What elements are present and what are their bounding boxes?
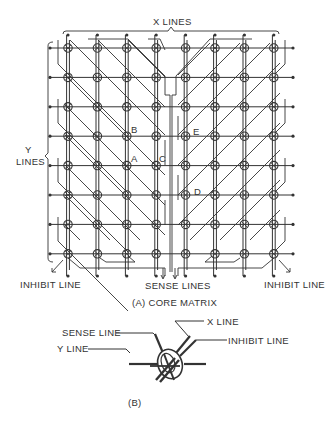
- core-label-b: B: [131, 124, 138, 135]
- inhibit-line-label: INHIBIT LINE: [228, 335, 289, 346]
- y-line-label: Y LINE: [57, 343, 89, 354]
- y-lines-label-line2: LINES: [16, 156, 45, 167]
- sense-line-label: SENSE LINE: [62, 327, 121, 338]
- panel-a-caption: (A) CORE MATRIX: [132, 297, 217, 308]
- x-line-label: X LINE: [207, 316, 239, 327]
- core-label-a: A: [131, 153, 138, 164]
- core-label-c: C: [159, 153, 166, 164]
- core-matrix-diagram: X LINES Y LINES B A C E D INHIBIT LINE S…: [0, 0, 335, 421]
- panel-b-caption: (B): [128, 397, 142, 408]
- inhibit-line-right-label: INHIBIT LINE: [264, 279, 325, 290]
- core-label-e: E: [193, 126, 200, 137]
- core-label-d: D: [194, 186, 201, 197]
- sense-lines-label: SENSE LINES: [145, 280, 211, 291]
- x-lines-label: X LINES: [153, 16, 192, 27]
- inhibit-line-left-label: INHIBIT LINE: [20, 279, 81, 290]
- y-lines-label-line1: Y: [25, 144, 32, 155]
- core-grid: [45, 27, 295, 311]
